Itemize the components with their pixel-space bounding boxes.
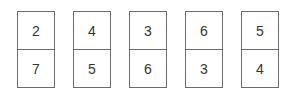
card-top-value: 2	[18, 12, 54, 49]
card-1: 2 7	[17, 11, 55, 88]
card-3: 3 6	[129, 11, 167, 88]
card-top-value: 5	[242, 12, 278, 49]
card-2: 4 5	[73, 11, 111, 88]
card-bottom-value: 5	[74, 50, 110, 87]
card-5: 5 4	[241, 11, 279, 88]
card-top-value: 6	[186, 12, 222, 49]
card-top-value: 3	[130, 12, 166, 49]
card-bottom-value: 7	[18, 50, 54, 87]
card-top-value: 4	[74, 12, 110, 49]
card-bottom-value: 6	[130, 50, 166, 87]
card-bottom-value: 3	[186, 50, 222, 87]
card-4: 6 3	[185, 11, 223, 88]
card-bottom-value: 4	[242, 50, 278, 87]
